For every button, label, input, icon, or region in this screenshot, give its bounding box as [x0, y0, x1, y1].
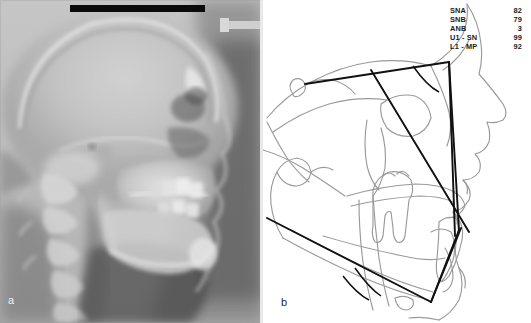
measurement-name: L1 - MP	[450, 42, 477, 51]
cephalometric-figure: a	[0, 0, 531, 323]
table-row: ANB 3	[450, 24, 522, 33]
mandibular-angle-arc-outer	[343, 276, 369, 300]
panel-b-tracing: SNA 82 SNB 79 ANB 3 U1 - SN 99 L1 - MP 9…	[263, 0, 531, 323]
cephalometric-measurements-table: SNA 82 SNB 79 ANB 3 U1 - SN 99 L1 - MP 9…	[450, 6, 522, 51]
ear-rod-tip-icon	[220, 18, 229, 32]
measurement-value: 3	[508, 24, 522, 33]
mandibular-plane-line	[267, 218, 431, 302]
measurement-name: SNB	[450, 15, 466, 24]
measurement-value: 79	[508, 15, 522, 24]
table-row: SNA 82	[450, 6, 522, 15]
measurement-name: U1 - SN	[450, 33, 477, 42]
lateral-cephalometric-radiograph-image	[0, 0, 263, 323]
table-row: SNB 79	[450, 15, 522, 24]
panel-b-label: b	[281, 296, 287, 308]
panel-a-label: a	[8, 294, 14, 306]
measurement-value: 82	[508, 6, 522, 15]
measurement-name: ANB	[450, 24, 466, 33]
measurement-name: SNA	[450, 6, 466, 15]
table-row: L1 - MP 92	[450, 42, 522, 51]
radiograph-reference-bar	[70, 5, 205, 12]
panel-a-radiograph: a	[0, 0, 263, 323]
sn-angle-arc	[413, 66, 439, 92]
ear-rod-marker-icon	[228, 21, 263, 29]
measurement-value: 92	[508, 42, 522, 51]
measurement-lines-group	[267, 62, 469, 302]
measurement-value: 99	[508, 33, 522, 42]
table-row: U1 - SN 99	[450, 33, 522, 42]
